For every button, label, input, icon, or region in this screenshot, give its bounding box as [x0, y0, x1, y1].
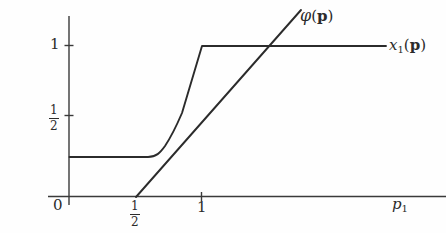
- y-tick-label-1: 1: [50, 37, 60, 52]
- plot-canvas: [0, 0, 446, 233]
- curve-label-x1: x1(p): [389, 38, 426, 55]
- x-tick-label-1: 1: [197, 200, 207, 215]
- fraction-denominator: 2: [130, 216, 140, 229]
- axis-origin-label: 0: [53, 198, 63, 213]
- fraction-numerator: 1: [49, 104, 59, 117]
- phi-glyph: φ: [300, 6, 311, 25]
- curve-label-phi: φ(p): [300, 8, 333, 24]
- fraction-denominator: 2: [49, 120, 59, 133]
- x1-arg-p: p: [410, 36, 421, 54]
- fraction-one-half-x: 1 2: [130, 200, 140, 228]
- figure-container: 0 1 1 2 1 2 1 φ(p) x1(p) p1: [0, 0, 446, 233]
- x-axis-name: p1: [392, 197, 408, 214]
- x-axis-name-var: p: [392, 195, 402, 213]
- phi-arg-p: p: [317, 7, 328, 25]
- curve-x1: [70, 46, 387, 157]
- x-axis-name-subscript: 1: [402, 203, 408, 214]
- fraction-one-half-y: 1 2: [49, 104, 59, 132]
- fraction-numerator: 1: [130, 200, 140, 213]
- phi-paren-close: ): [328, 7, 334, 25]
- y-tick-label-half: 1 2: [49, 104, 59, 132]
- curve-phi: [136, 10, 301, 197]
- x-tick-label-half: 1 2: [130, 200, 140, 228]
- x1-paren-close: ): [420, 36, 426, 54]
